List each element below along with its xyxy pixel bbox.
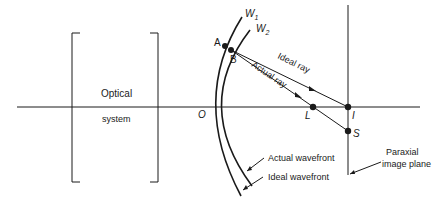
wavefront-aberration-diagram: Optical system O A B L I S W1 W2 Ideal r… — [0, 0, 446, 202]
ideal-ray-label: Ideal ray — [276, 51, 312, 75]
label-i: I — [352, 110, 355, 121]
label-b: B — [230, 54, 237, 65]
ideal-ray-arrow-icon — [309, 86, 316, 91]
label-s: S — [353, 128, 360, 139]
paraxial-plane-leader — [350, 162, 381, 174]
point-s — [345, 128, 351, 134]
point-l — [310, 104, 316, 110]
ideal-wavefront-label: Ideal wavefront — [268, 172, 330, 182]
point-a — [222, 43, 228, 49]
optical-system-label-line2: system — [102, 114, 131, 124]
actual-ray-label: Actual ray — [250, 59, 289, 90]
ideal-wavefront-arrow-icon — [243, 185, 248, 190]
paraxial-label-line2: image plane — [382, 159, 431, 169]
label-o: O — [198, 109, 206, 120]
label-l: L — [305, 110, 311, 121]
label-w1: W1 — [245, 8, 258, 21]
optical-system-label-line1: Optical — [101, 88, 132, 99]
point-i — [345, 104, 351, 110]
point-b — [228, 47, 234, 53]
actual-ray-arrow-icon — [295, 92, 302, 98]
label-w2: W2 — [256, 23, 269, 36]
diagram-canvas: Optical system O A B L I S W1 W2 Ideal r… — [0, 0, 446, 202]
paraxial-label-line1: Paraxial — [386, 147, 419, 157]
actual-wavefront-arrow-icon — [247, 166, 252, 171]
paraxial-arrow-icon — [350, 170, 355, 174]
actual-wavefront-label: Actual wavefront — [268, 153, 335, 163]
label-a: A — [214, 37, 221, 48]
